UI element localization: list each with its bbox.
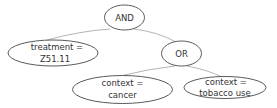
node-treatment-line1: treatment = — [31, 42, 83, 52]
edge-and-or — [134, 29, 176, 42]
node-cancer: context = cancer — [73, 76, 173, 104]
node-cancer-line2: cancer — [108, 90, 137, 100]
node-tobacco-line2: tobacco use — [199, 88, 250, 98]
node-treatment: treatment = Z51.11 — [8, 40, 98, 66]
node-or-label: OR — [175, 49, 188, 59]
node-and-label: AND — [115, 13, 134, 23]
node-or: OR — [162, 41, 202, 66]
node-tobacco: context = tobacco use — [184, 77, 266, 99]
edge-or-cancer — [120, 66, 175, 76]
edge-and-treatment — [47, 29, 110, 40]
edge-or-tobacco — [187, 66, 222, 77]
node-treatment-line2: Z51.11 — [40, 54, 70, 64]
node-tobacco-line1: context = — [205, 77, 247, 87]
node-cancer-line1: context = — [102, 78, 144, 88]
node-and: AND — [105, 5, 145, 30]
logic-tree-diagram: AND treatment = Z51.11 OR context = canc… — [0, 0, 277, 108]
